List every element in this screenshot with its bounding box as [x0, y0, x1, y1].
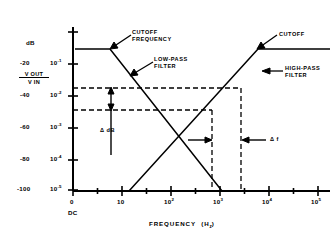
- annotation-low-pass-filter: LOW-PASS FILTER: [154, 56, 188, 70]
- annotation-cutoff-frequency-line2: FREQUENCY: [132, 36, 172, 42]
- x-tick-label-100k: 105: [311, 198, 321, 206]
- x-tick-label-1k: 103: [213, 198, 223, 206]
- y-tick-label-1e-5: 10-5: [50, 185, 61, 193]
- y-tick-label--40: -40: [20, 92, 30, 99]
- y-tick-label-1e-2: 10-2: [50, 91, 61, 99]
- x-axis-title: FREQUENCY (Hz): [149, 221, 215, 229]
- annotation-high-pass-line2: FILTER: [285, 72, 307, 78]
- annotation-high-pass-line1: HIGH-PASS: [285, 65, 320, 71]
- annotation-delta-f: Δ f: [270, 136, 279, 142]
- x-tick-label-10: 10: [117, 199, 124, 206]
- y-axis-ratio-numerator: V OUT: [19, 71, 49, 78]
- reference-lines: [73, 88, 241, 191]
- x-tick-label-dc: DC: [68, 210, 78, 217]
- delta-f-arrows: [188, 137, 266, 143]
- x-tick-label-10k: 104: [262, 198, 272, 206]
- y-tick-label-1e-4: 10-4: [50, 155, 61, 163]
- annotation-cutoff-frequency-line1: CUTOFF: [132, 29, 158, 35]
- filter-response-figure: dB -20 -40 -60 -80 -100 V OUT V IN 10-1 …: [0, 0, 336, 241]
- annotation-high-pass-filter: HIGH-PASS FILTER: [285, 65, 320, 79]
- y-axis-ratio-denominator: V IN: [19, 78, 49, 85]
- y-tick-label-1e-3: 10-3: [50, 123, 61, 131]
- x-tick-label-0: 0: [70, 199, 74, 206]
- y-axis-db-title: dB: [26, 40, 35, 47]
- annotation-low-pass-line2: FILTER: [154, 63, 176, 69]
- delta-db-arrow: [108, 87, 114, 155]
- y-axis-ratio-title: V OUT V IN: [19, 71, 49, 85]
- annotation-cutoff-frequency: CUTOFF FREQUENCY: [132, 29, 172, 43]
- annotation-low-pass-line1: LOW-PASS: [154, 56, 188, 62]
- y-tick-label--100: -100: [17, 186, 31, 193]
- annotation-cutoff: CUTOFF: [279, 31, 305, 37]
- y-tick-label--20: -20: [20, 60, 30, 67]
- x-tick-label-100: 102: [164, 198, 174, 206]
- y-tick-label--60: -60: [20, 124, 30, 131]
- annotation-delta-db: Δ dB: [100, 127, 115, 133]
- y-tick-label-1e-1: 10-1: [50, 59, 61, 67]
- y-tick-label--80: -80: [20, 156, 30, 163]
